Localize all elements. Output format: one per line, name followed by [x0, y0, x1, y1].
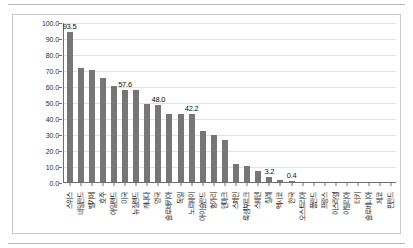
bar[interactable] [133, 90, 139, 182]
bar-slot [75, 23, 86, 182]
x-tick-label: 독일 [175, 192, 185, 204]
y-tick-label: 100.0 [42, 20, 59, 27]
x-label-slot: 이스라엘 [329, 191, 340, 239]
x-tick-label: 영국 [152, 192, 162, 204]
bar-slot [386, 23, 397, 182]
x-tick-label: 슬로바키아 [163, 192, 173, 221]
bar[interactable] [78, 68, 84, 182]
x-label-slot: 스페인 [230, 191, 241, 239]
page-canvas: 100.090.080.070.060.050.040.030.020.010.… [0, 0, 413, 248]
x-tick-label: 슬로베니아 [363, 192, 373, 221]
bar-slot [275, 23, 286, 182]
x-tick-mark [291, 182, 292, 186]
x-tick-label: 호주 [97, 192, 107, 204]
bar[interactable] [244, 166, 250, 182]
x-tick-mark [236, 182, 237, 186]
x-tick-label: 핀란드 [385, 192, 395, 209]
bar-slot [131, 23, 142, 182]
x-tick-label: 체코 [374, 192, 384, 204]
bar[interactable] [189, 114, 195, 182]
y-tick-mark [59, 135, 62, 136]
bar[interactable] [89, 70, 95, 182]
bar-slot [164, 23, 175, 182]
x-label-slot: 오스트리아 [296, 191, 307, 239]
bar[interactable] [178, 114, 184, 182]
page-rule-top [8, 4, 405, 5]
x-label-slot: 호주 [96, 191, 107, 239]
bar[interactable] [255, 171, 261, 182]
bar-slot [330, 23, 341, 182]
x-tick-mark [313, 182, 314, 186]
bar-slot [86, 23, 97, 182]
x-label-slot: 칠레 [263, 191, 274, 239]
bar-value-label: 0.4 [287, 171, 297, 180]
x-tick-label: 프랑스 [319, 192, 329, 209]
x-label-slot: 헝가리 [207, 191, 218, 239]
bar[interactable] [200, 131, 206, 182]
x-tick-label: 아이슬란드 [197, 192, 207, 221]
bar-slot [219, 23, 230, 182]
bar[interactable] [222, 140, 228, 182]
x-tick-mark [258, 182, 259, 186]
y-tick-label: 60.0 [46, 84, 59, 91]
bar-slot [253, 23, 264, 182]
y-tick-mark [59, 55, 62, 56]
x-tick-label: 칠레 [263, 192, 273, 204]
x-tick-label: 이스라엘 [330, 192, 340, 215]
x-tick-label: 헝가리 [208, 192, 218, 209]
x-label-slot: 미국 [119, 191, 130, 239]
x-tick-mark [202, 182, 203, 186]
x-tick-mark [213, 182, 214, 186]
chart-frame: 100.090.080.070.060.050.040.030.020.010.… [12, 14, 401, 234]
x-tick-label: 캐나다 [141, 192, 151, 209]
bar-slot: 42.2 [186, 23, 197, 182]
x-label-slot: 스위스 [63, 191, 74, 239]
bar-slot: 57.6 [120, 23, 131, 182]
bar[interactable] [67, 32, 73, 182]
x-tick-mark [335, 182, 336, 186]
y-tick-label: 90.0 [46, 36, 59, 43]
x-tick-mark [324, 182, 325, 186]
bar[interactable] [155, 105, 161, 182]
x-tick-label: 뉴질랜드 [130, 192, 140, 215]
bar[interactable] [100, 78, 106, 182]
y-axis: 100.090.080.070.060.050.040.030.020.010.… [13, 23, 59, 183]
x-label-slot: 아이슬란드 [196, 191, 207, 239]
x-label-slot: 스웨덴 [252, 191, 263, 239]
y-tick-label: 20.0 [46, 148, 59, 155]
x-tick-label: 폴란드 [308, 192, 318, 209]
bar-slot [197, 23, 208, 182]
x-label-slot: 멕시코 [274, 191, 285, 239]
y-tick-mark [59, 119, 62, 120]
x-tick-mark [158, 182, 159, 186]
x-tick-mark [80, 182, 81, 186]
bar[interactable] [111, 86, 117, 182]
bar[interactable] [211, 135, 217, 182]
bar[interactable] [144, 104, 150, 182]
x-tick-mark [369, 182, 370, 186]
y-tick-mark [59, 167, 62, 168]
x-label-slot: 노르웨이 [185, 191, 196, 239]
bar-slot: 93.5 [64, 23, 75, 182]
x-tick-mark [347, 182, 348, 186]
y-tick-mark [59, 151, 62, 152]
x-label-slot: 슬로베니아 [363, 191, 374, 239]
bar-slot [175, 23, 186, 182]
bar-slot [208, 23, 219, 182]
x-tick-mark [136, 182, 137, 186]
x-label-slot: 이탈리아 [341, 191, 352, 239]
page-rule-bottom [8, 243, 405, 244]
bar[interactable] [233, 164, 239, 182]
x-tick-mark [125, 182, 126, 186]
x-tick-label: 스웨덴 [252, 192, 262, 209]
bar-slot: 0.4 [286, 23, 297, 182]
x-tick-label: 스위스 [64, 192, 74, 209]
y-tick-mark [59, 183, 62, 184]
bar[interactable] [166, 114, 172, 182]
bar-slot [242, 23, 253, 182]
x-tick-label: 터키 [352, 192, 362, 204]
bar[interactable] [122, 90, 128, 182]
x-label-slot: 슬로바키아 [163, 191, 174, 239]
x-label-slot: 체코 [374, 191, 385, 239]
y-tick-mark [59, 71, 62, 72]
